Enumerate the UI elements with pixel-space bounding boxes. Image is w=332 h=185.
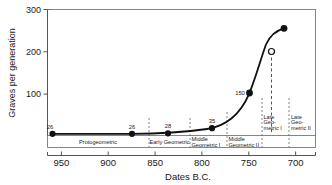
data-point-6-open <box>269 49 275 55</box>
graves-per-generation-curve <box>53 28 285 134</box>
data-point-4 <box>209 125 215 131</box>
x-tick-label-800: 800 <box>194 157 210 168</box>
data-point-label-2: 26 <box>129 124 135 130</box>
period-label-late-geometric-ii-line3: metric II <box>291 125 311 131</box>
data-points <box>49 25 287 137</box>
period-label-protogeometric: Protogeometric <box>79 139 117 145</box>
y-axis-ticks <box>44 10 48 95</box>
data-point-labels: 26 26 28 35 150 <box>47 90 245 130</box>
x-axis-tick-labels: 950 900 850 800 750 700 <box>53 157 303 168</box>
data-point-5 <box>246 90 253 97</box>
period-label-middle-geometric-i-line2: Geometric I <box>192 142 221 148</box>
period-label-middle-geometric-ii-line2: Geometric II <box>229 142 260 148</box>
x-axis-title: Dates B.C. <box>165 171 211 182</box>
data-point-label-1: 26 <box>47 124 53 130</box>
data-point-3 <box>165 130 171 136</box>
data-point-2 <box>129 131 135 137</box>
x-axis <box>48 152 316 156</box>
graves-per-generation-line-chart: 300 200 100 Graves per generation Protog… <box>0 0 332 185</box>
data-point-label-3: 28 <box>165 123 171 129</box>
x-tick-label-950: 950 <box>53 157 69 168</box>
plot-frame <box>48 9 316 136</box>
period-label-early-geometric: Early Geometric <box>149 139 189 145</box>
y-tick-label-100: 100 <box>26 89 41 99</box>
data-point-label-4: 35 <box>209 118 215 124</box>
data-point-7 <box>281 25 288 32</box>
y-tick-label-200: 200 <box>26 47 41 57</box>
x-tick-label-900: 900 <box>100 157 116 168</box>
y-axis-tick-labels: 300 200 100 <box>26 5 41 100</box>
chart-screenshot: 300 200 100 Graves per generation Protog… <box>0 0 332 185</box>
y-tick-label-300: 300 <box>26 5 41 15</box>
x-tick-label-850: 850 <box>147 157 163 168</box>
data-point-label-5: 150 <box>235 90 245 96</box>
x-tick-label-750: 750 <box>241 157 257 168</box>
period-label-late-geometric-i-line3: metric I <box>264 125 283 131</box>
late-geometric-labels: Late Geo- metric I Late Geo- metric II <box>264 114 312 131</box>
y-axis-title: Graves per generation <box>7 28 17 118</box>
data-point-1 <box>49 131 55 137</box>
x-tick-label-700: 700 <box>288 157 304 168</box>
